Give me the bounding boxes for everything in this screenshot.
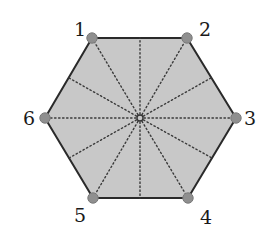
center-point-icon bbox=[137, 115, 143, 121]
vertex-label-2: 2 bbox=[199, 18, 211, 40]
vertex-label-6: 6 bbox=[23, 107, 35, 129]
vertex-dot-3 bbox=[231, 113, 241, 123]
vertex-label-5: 5 bbox=[74, 204, 86, 226]
vertex-label-3: 3 bbox=[244, 107, 256, 129]
vertex-dot-2 bbox=[182, 33, 192, 43]
vertex-dot-1 bbox=[87, 33, 97, 43]
vertex-dot-5 bbox=[88, 193, 98, 203]
hexagon-diagram: 123456 bbox=[0, 0, 269, 236]
vertex-label-1: 1 bbox=[74, 18, 86, 40]
vertex-dot-4 bbox=[183, 193, 193, 203]
vertex-label-4: 4 bbox=[200, 206, 212, 228]
vertex-dot-6 bbox=[40, 113, 50, 123]
